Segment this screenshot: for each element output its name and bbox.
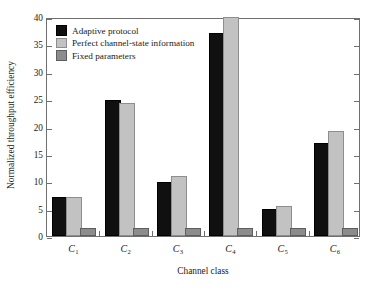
x-tick-mark	[256, 231, 257, 236]
bar	[171, 176, 187, 236]
bar	[133, 228, 149, 236]
x-tick-label: C2	[121, 243, 131, 255]
x-tick-label: C4	[225, 243, 235, 255]
x-tick-label: C6	[330, 243, 340, 255]
y-tick-label: 30	[34, 69, 43, 78]
y-axis-title: Normalized throughput efficiency	[4, 10, 18, 240]
y-tick-mark-left	[47, 238, 52, 239]
bar	[185, 228, 201, 236]
legend-label: Adaptive protocol	[72, 26, 139, 36]
y-tick-label: 35	[34, 42, 43, 51]
x-axis-title: Channel class	[46, 266, 360, 277]
y-tick-label: 40	[34, 14, 43, 23]
legend-swatch-icon	[56, 38, 67, 49]
bar	[290, 228, 306, 236]
bar	[328, 131, 344, 236]
bar	[80, 228, 96, 236]
x-tick-label: C1	[68, 243, 78, 255]
x-tick-mark	[204, 231, 205, 236]
legend-item: Adaptive protocol	[56, 25, 194, 36]
x-tick-label: C3	[173, 243, 183, 255]
y-tick-label: 25	[34, 96, 43, 105]
legend-swatch-icon	[56, 50, 67, 61]
legend-label: Fixed parameters	[72, 51, 136, 61]
x-tick-mark	[309, 231, 310, 236]
y-tick-label: 20	[34, 124, 43, 133]
y-tick-label: 15	[34, 151, 43, 160]
x-tick-label: C5	[278, 243, 288, 255]
y-tick-label: 10	[34, 179, 43, 188]
bar	[237, 228, 253, 236]
plot-area: 0510152025303540 C1C2C3C4C5C6 Adaptive p…	[46, 18, 360, 237]
y-tick-label: 5	[38, 206, 43, 215]
legend-swatch-icon	[56, 25, 67, 36]
y-tick-label: 0	[38, 233, 43, 242]
bar	[119, 103, 135, 236]
bar	[342, 228, 358, 236]
y-tick-mark-right	[354, 238, 359, 239]
chart-legend: Adaptive protocolPerfect channel-state i…	[56, 25, 194, 61]
bar-group	[209, 19, 251, 236]
legend-item: Perfect channel-state information	[56, 38, 194, 49]
bar-chart-figure: Normalized throughput efficiency 0510152…	[0, 0, 384, 292]
legend-item: Fixed parameters	[56, 50, 194, 61]
x-tick-mark	[152, 231, 153, 236]
legend-label: Perfect channel-state information	[72, 38, 194, 48]
x-tick-mark	[99, 231, 100, 236]
bar	[223, 17, 239, 236]
bar-group	[262, 19, 304, 236]
bar-group	[314, 19, 356, 236]
